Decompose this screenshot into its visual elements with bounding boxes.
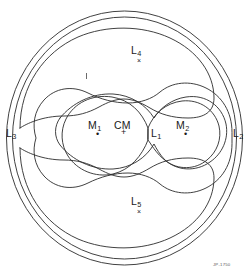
label-l1: L1 [151, 128, 161, 139]
label-l5: L5 [131, 196, 141, 207]
roche-lobe-left [62, 96, 148, 175]
label-m2: M2 [176, 120, 189, 131]
equipotential-figure: M1 • CM + M2 • L1 L2 L3 L4 × L5 × JP-175… [0, 0, 249, 279]
label-m1: M1 [88, 120, 101, 131]
second-outer-equipotential [13, 17, 237, 259]
figure-credit: JP-1750 [213, 262, 230, 267]
l5-point-marker: × [137, 208, 141, 215]
inner-envelope-contour [56, 94, 227, 169]
center-of-mass-marker: + [121, 128, 126, 137]
label-l2: L2 [233, 128, 243, 139]
m1-point-marker: • [96, 130, 99, 139]
l3-equipotential-contour-lower [20, 148, 214, 248]
label-l4: L4 [131, 45, 141, 56]
outer-equipotential-circle [7, 11, 243, 265]
contour-svg [0, 0, 249, 279]
l4-point-marker: × [137, 57, 141, 64]
m2-point-marker: • [184, 130, 187, 139]
contour-tick-mark [86, 73, 87, 79]
l3-equipotential-contour [20, 28, 214, 128]
label-l3: L3 [6, 128, 16, 139]
